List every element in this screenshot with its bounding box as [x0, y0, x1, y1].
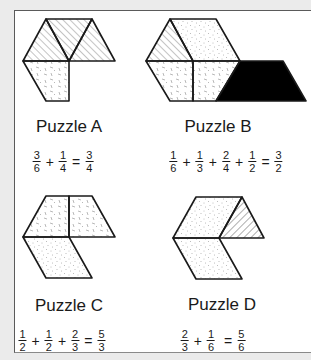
fraction: 16	[207, 329, 215, 352]
equals-sign: =	[72, 154, 80, 170]
result-fraction: 53	[97, 329, 105, 352]
puzzle-a-label: Puzzle A	[36, 117, 102, 137]
puzzle-d-shape	[173, 197, 264, 279]
plus-sign: +	[209, 154, 217, 170]
puzzle-d-equation: 23 + 16 = 56	[180, 329, 247, 352]
puzzle-c-equation: 12 + 12 + 23 = 53	[17, 329, 106, 352]
fraction: 24	[222, 150, 230, 173]
plus-sign: +	[194, 333, 202, 349]
fraction: 23	[71, 329, 79, 352]
result-fraction: 32	[275, 150, 283, 173]
plus-sign: +	[58, 333, 66, 349]
puzzle-c-label: Puzzle C	[35, 296, 103, 316]
puzzle-b-equation: 16 + 13 + 24 + 12 = 32	[168, 150, 283, 173]
equals-sign: =	[261, 154, 269, 170]
puzzle-b-label: Puzzle B	[184, 117, 251, 137]
plus-sign: +	[235, 154, 243, 170]
fraction: 13	[196, 150, 204, 173]
fraction: 12	[18, 329, 26, 352]
result-fraction: 34	[85, 150, 93, 173]
puzzle-d-label: Puzzle D	[188, 295, 256, 315]
puzzle-b-shape	[146, 19, 306, 101]
plus-sign: +	[46, 154, 54, 170]
fraction: 14	[59, 150, 67, 173]
plus-sign: +	[32, 333, 40, 349]
fraction: 12	[45, 329, 53, 352]
puzzle-a-equation: 36 + 14 = 34	[32, 150, 95, 173]
puzzle-a-shape	[23, 19, 115, 101]
fraction: 36	[33, 150, 41, 173]
equals-sign: =	[224, 333, 232, 349]
fraction: 12	[248, 150, 256, 173]
puzzle-c-shape	[23, 196, 115, 278]
fraction: 23	[181, 329, 189, 352]
plus-sign: +	[182, 154, 190, 170]
result-fraction: 56	[237, 329, 245, 352]
equals-sign: =	[84, 333, 92, 349]
fraction: 16	[169, 150, 177, 173]
